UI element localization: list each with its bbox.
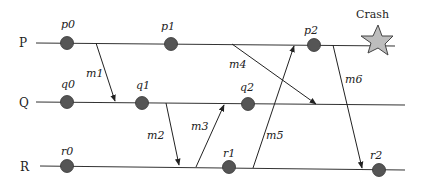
message-label-m4: m4 [229, 58, 246, 71]
message-m4-arrow [232, 44, 316, 104]
message-m6-arrow [333, 45, 362, 168]
crash-star-icon [361, 25, 393, 55]
message-label-m1: m1 [86, 67, 103, 80]
process-label-p: P [19, 36, 27, 50]
event-r1 [223, 161, 236, 174]
event-label-p0: p0 [61, 18, 75, 31]
event-label-r1: r1 [223, 147, 235, 160]
process-label-q: Q [19, 96, 29, 110]
event-p0 [61, 37, 74, 50]
message-label-m5: m5 [266, 129, 283, 142]
event-q1 [136, 97, 149, 110]
event-q2 [242, 98, 255, 111]
crash-label: Crash [356, 8, 389, 21]
event-p2 [308, 39, 321, 52]
event-q0 [61, 96, 74, 109]
process-label-r: R [20, 160, 30, 174]
message-m5-arrow [253, 46, 294, 168]
space-time-diagram: P Q R m1 m2 m3 m4 m5 m6 p0 p1 p2 q0 q1 q… [0, 0, 426, 185]
message-m2-arrow [166, 103, 179, 165]
event-r2 [373, 164, 386, 177]
process-line-q [36, 102, 405, 105]
event-label-r2: r2 [370, 149, 382, 162]
event-label-q1: q1 [136, 79, 150, 92]
message-label-m2: m2 [147, 129, 164, 142]
message-m3-arrow [196, 105, 224, 167]
message-label-m3: m3 [191, 120, 208, 133]
event-label-p1: p1 [161, 20, 175, 33]
event-r0 [61, 160, 74, 173]
process-line-p [36, 43, 395, 46]
message-label-m6: m6 [345, 73, 362, 86]
event-label-q0: q0 [61, 78, 75, 91]
event-label-q2: q2 [240, 81, 254, 94]
event-label-p2: p2 [304, 24, 318, 37]
event-p1 [165, 38, 178, 51]
event-label-r0: r0 [61, 145, 73, 158]
